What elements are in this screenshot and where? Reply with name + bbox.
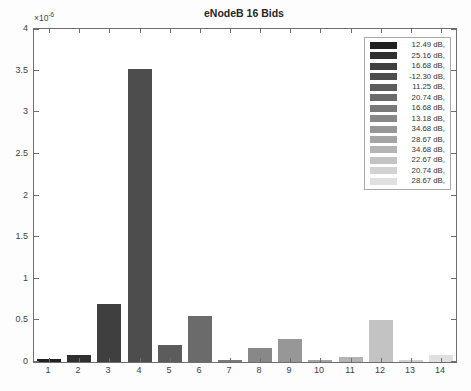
x-tick-top bbox=[260, 29, 261, 33]
x-tick-label: 7 bbox=[217, 366, 241, 375]
y-tick-label: 3 bbox=[2, 107, 28, 116]
x-tick-bottom bbox=[320, 358, 321, 362]
legend-row-13: 20.74 dB, bbox=[370, 166, 446, 176]
legend-row-6: 20.74 dB, bbox=[370, 93, 446, 103]
legend-swatch bbox=[370, 136, 397, 143]
x-tick-label: 6 bbox=[187, 366, 211, 375]
legend-swatch bbox=[370, 115, 397, 122]
x-tick-top bbox=[140, 29, 141, 33]
y-tick-label: 1 bbox=[2, 274, 28, 283]
x-tick-bottom bbox=[411, 358, 412, 362]
x-tick-top bbox=[170, 29, 171, 33]
x-tick-top bbox=[290, 29, 291, 33]
y-tick-left bbox=[34, 361, 39, 362]
x-tick-bottom bbox=[290, 358, 291, 362]
x-tick-bottom bbox=[140, 358, 141, 362]
y-tick-left bbox=[34, 70, 39, 71]
legend-label: 20.74 dB, bbox=[397, 94, 446, 102]
legend-row-1: 12.49 dB, bbox=[370, 40, 446, 50]
legend-row-3: 16.68 dB, bbox=[370, 61, 446, 71]
legend-swatch bbox=[370, 146, 397, 153]
legend-swatch bbox=[370, 126, 397, 133]
x-tick-top bbox=[351, 29, 352, 33]
x-tick-label: 2 bbox=[66, 366, 90, 375]
y-tick-left bbox=[34, 195, 39, 196]
y-axis-exponent-base: ×10 bbox=[34, 13, 48, 23]
legend-row-9: 34.68 dB, bbox=[370, 124, 446, 134]
legend-label: 11.25 dB, bbox=[397, 83, 446, 91]
x-tick-top bbox=[441, 29, 442, 33]
y-tick-left bbox=[34, 153, 39, 154]
bar-3 bbox=[97, 304, 121, 362]
x-tick-label: 1 bbox=[36, 366, 60, 375]
chart-title: eNodeB 16 Bids bbox=[33, 7, 455, 19]
x-tick-label: 5 bbox=[157, 366, 181, 375]
y-axis-exponent: ×10-6 bbox=[34, 11, 54, 23]
legend-row-5: 11.25 dB, bbox=[370, 82, 446, 92]
x-tick-top bbox=[230, 29, 231, 33]
bar-6 bbox=[188, 316, 212, 362]
legend-swatch bbox=[370, 52, 397, 59]
bar-4 bbox=[128, 69, 152, 362]
legend-swatch bbox=[370, 73, 397, 80]
legend-label: 34.68 dB, bbox=[397, 125, 446, 133]
x-tick-bottom bbox=[351, 358, 352, 362]
legend-label: 22.67 dB, bbox=[397, 156, 446, 164]
legend-row-2: 25.16 dB, bbox=[370, 51, 446, 61]
x-tick-bottom bbox=[260, 358, 261, 362]
x-tick-bottom bbox=[441, 358, 442, 362]
x-tick-bottom bbox=[200, 358, 201, 362]
x-tick-label: 4 bbox=[127, 366, 151, 375]
y-tick-right bbox=[451, 195, 456, 196]
x-tick-top bbox=[381, 29, 382, 33]
legend-swatch bbox=[370, 84, 397, 91]
x-tick-bottom bbox=[170, 358, 171, 362]
x-tick-top bbox=[320, 29, 321, 33]
y-tick-right bbox=[451, 29, 456, 30]
y-tick-label: 3.5 bbox=[2, 66, 28, 75]
y-tick-left bbox=[34, 236, 39, 237]
legend-row-8: 13.18 dB, bbox=[370, 114, 446, 124]
bar-12 bbox=[369, 320, 393, 362]
y-tick-label: 4 bbox=[2, 24, 28, 33]
legend-label: 28.67 dB, bbox=[397, 177, 446, 185]
legend-swatch bbox=[370, 63, 397, 70]
y-tick-right bbox=[451, 361, 456, 362]
legend-row-10: 28.67 dB, bbox=[370, 135, 446, 145]
y-tick-label: 2 bbox=[2, 191, 28, 200]
legend-box: 12.49 dB,25.16 dB,16.68 dB,-12.30 dB,11.… bbox=[364, 37, 451, 190]
y-tick-label: 0.5 bbox=[2, 315, 28, 324]
y-tick-right bbox=[451, 153, 456, 154]
legend-row-4: -12.30 dB, bbox=[370, 72, 446, 82]
y-tick-left bbox=[34, 319, 39, 320]
x-tick-label: 13 bbox=[398, 366, 422, 375]
legend-swatch bbox=[370, 167, 397, 174]
legend-label: 13.18 dB, bbox=[397, 115, 446, 123]
legend-label: 25.16 dB, bbox=[397, 52, 446, 60]
legend-swatch bbox=[370, 94, 397, 101]
legend-swatch bbox=[370, 105, 397, 112]
x-tick-bottom bbox=[79, 358, 80, 362]
legend-row-14: 28.67 dB, bbox=[370, 176, 446, 186]
x-tick-label: 3 bbox=[96, 366, 120, 375]
y-tick-right bbox=[451, 319, 456, 320]
x-tick-bottom bbox=[230, 358, 231, 362]
x-tick-label: 8 bbox=[247, 366, 271, 375]
legend-swatch bbox=[370, 157, 397, 164]
legend-swatch bbox=[370, 42, 397, 49]
legend-label: 16.68 dB, bbox=[397, 62, 446, 70]
x-tick-label: 14 bbox=[428, 366, 452, 375]
x-tick-top bbox=[109, 29, 110, 33]
legend-label: 12.49 dB, bbox=[397, 41, 446, 49]
x-tick-top bbox=[79, 29, 80, 33]
legend-swatch bbox=[370, 178, 397, 185]
legend-label: -12.30 dB, bbox=[397, 73, 446, 81]
x-tick-label: 12 bbox=[368, 366, 392, 375]
legend-label: 16.68 dB, bbox=[397, 104, 446, 112]
y-tick-right bbox=[451, 278, 456, 279]
y-tick-right bbox=[451, 236, 456, 237]
x-tick-label: 10 bbox=[307, 366, 331, 375]
y-tick-label: 0 bbox=[2, 357, 28, 366]
y-tick-label: 2.5 bbox=[2, 149, 28, 158]
x-tick-top bbox=[49, 29, 50, 33]
